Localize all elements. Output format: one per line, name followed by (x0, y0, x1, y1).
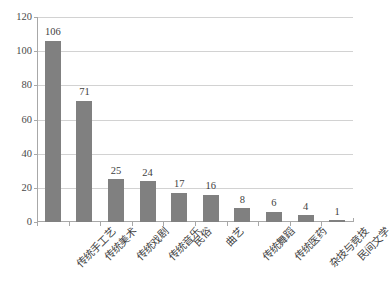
bar-slot: 1 (321, 17, 353, 222)
y-axis-tick-label: 100 (16, 46, 32, 57)
bar[interactable] (329, 220, 345, 222)
bar-slot: 71 (69, 17, 101, 222)
bar-value-label: 1 (335, 207, 340, 218)
plot-area: 10671252417168641 (37, 17, 353, 222)
bar-slot: 8 (227, 17, 259, 222)
bar[interactable] (76, 101, 92, 222)
bar[interactable] (171, 193, 187, 222)
bar-slot: 4 (290, 17, 322, 222)
bar-slot: 6 (258, 17, 290, 222)
y-axis-tick-label: 80 (22, 80, 33, 91)
bar-value-label: 25 (111, 166, 122, 177)
y-axis-tick-label: 0 (27, 217, 32, 228)
bar[interactable] (266, 212, 282, 222)
y-axis-tick-label: 40 (22, 148, 33, 159)
bar-value-label: 17 (174, 179, 185, 190)
bar-value-label: 6 (271, 198, 276, 209)
x-axis-category-label: 曲艺 (224, 226, 246, 248)
bar[interactable] (298, 215, 314, 222)
bar-slot: 17 (163, 17, 195, 222)
bar-slot: 16 (195, 17, 227, 222)
y-axis-tick-label: 120 (16, 12, 32, 23)
bar-value-label: 4 (303, 202, 308, 213)
bar[interactable] (203, 195, 219, 222)
y-axis-tick-label: 20 (22, 183, 33, 194)
bar-slot: 24 (132, 17, 164, 222)
bar-series: 10671252417168641 (37, 17, 353, 222)
bar[interactable] (108, 179, 124, 222)
bar-value-label: 16 (206, 181, 217, 192)
bar-value-label: 8 (240, 195, 245, 206)
bar-value-label: 106 (45, 27, 61, 38)
y-axis-tick-label: 60 (22, 114, 33, 125)
bar[interactable] (45, 41, 61, 222)
bar[interactable] (140, 181, 156, 222)
bar[interactable] (234, 208, 250, 222)
bar-value-label: 24 (142, 168, 153, 179)
x-axis-category-label: 传统医药 (293, 226, 329, 262)
bar-slot: 25 (100, 17, 132, 222)
x-axis-labels: 传统手工艺传统美术传统戏剧传统音乐民俗曲艺传统舞蹈传统医药杂技与竞技民间文学 (37, 224, 353, 292)
y-axis: 020406080100120 (0, 0, 37, 205)
x-axis-tick-mark (353, 218, 354, 222)
bar-slot: 106 (37, 17, 69, 222)
bar-value-label: 71 (79, 87, 90, 98)
x-axis-category-label: 传统戏剧 (135, 226, 171, 262)
x-axis-category-label: 传统舞蹈 (261, 226, 297, 262)
